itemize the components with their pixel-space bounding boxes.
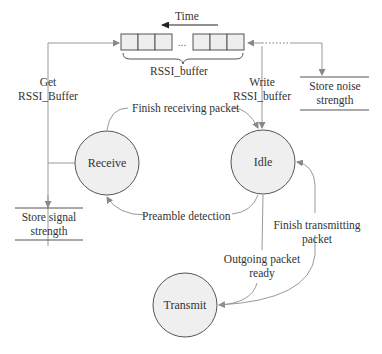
store-noise-line2: strength — [302, 93, 368, 107]
outgoing-line2: ready — [222, 266, 302, 280]
store-signal-line2: strength — [14, 224, 84, 238]
store-signal-label: Store signal strength — [14, 210, 84, 238]
finish-receiving-edge-a — [107, 108, 128, 130]
finish-transmit-line2: packet — [270, 232, 364, 246]
get-buffer-line1: Get — [14, 75, 82, 89]
receive-label: Receive — [75, 156, 139, 170]
finish-transmit-label: Finish transmitting packet — [270, 218, 364, 246]
transmit-label: Transmit — [153, 298, 217, 312]
buffer-brace — [123, 53, 243, 64]
buffer-label: RSSI_buffer — [150, 64, 208, 78]
time-label: Time — [175, 9, 199, 23]
write-buffer-line1: Write — [230, 75, 294, 89]
get-buffer-label: Get RSSI_Buffer — [14, 75, 82, 103]
buffer-ellipsis: ... — [178, 38, 187, 48]
outgoing-edge-a — [262, 195, 263, 250]
get-buffer-line2: RSSI_Buffer — [14, 89, 82, 103]
idle-label: Idle — [231, 155, 295, 169]
write-buffer-label: Write RSSI_buffer — [230, 75, 294, 103]
preamble-edge-b — [107, 197, 145, 215]
finish-receiving-label: Finish receiving packet — [132, 101, 239, 115]
store-noise-line1: Store noise — [302, 79, 368, 93]
outgoing-label: Outgoing packet ready — [222, 252, 302, 280]
finish-transmit-edge-b — [297, 162, 315, 213]
store-signal-line1: Store signal — [14, 210, 84, 224]
mask — [45, 246, 53, 306]
preamble-edge-a — [232, 195, 258, 214]
write-buffer-line2: RSSI_buffer — [230, 89, 294, 103]
store-noise-label: Store noise strength — [302, 79, 368, 107]
finish-transmit-line1: Finish transmitting — [270, 218, 364, 232]
preamble-label: Preamble detection — [142, 209, 230, 223]
noise-store-edge — [290, 43, 322, 75]
outgoing-line1: Outgoing packet — [222, 252, 302, 266]
